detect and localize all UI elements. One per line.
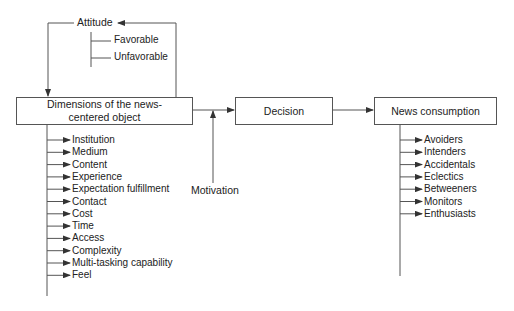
motivation-label: Motivation: [191, 184, 239, 196]
consumer-type-item: Eclectics: [424, 171, 463, 183]
consumer-type-item: Intenders: [424, 146, 466, 158]
consumer-type-item: Accidentals: [424, 159, 475, 171]
dimension-item: Feel: [72, 269, 91, 281]
dimension-item: Content: [72, 159, 107, 171]
dimension-item: Access: [72, 232, 104, 244]
decision-box: Decision: [235, 97, 333, 125]
news-consumption-box: News consumption: [374, 97, 497, 125]
attitude-option-unfavorable: Unfavorable: [114, 51, 168, 63]
consumer-type-item: Avoiders: [424, 134, 463, 146]
consumer-type-item: Monitors: [424, 196, 462, 208]
dimensions-box-label: Dimensions of the news-centered object: [35, 98, 174, 124]
dimension-item: Complexity: [72, 245, 121, 257]
decision-box-label: Decision: [264, 105, 304, 118]
dimension-item: Time: [72, 220, 94, 232]
attitude-label: Attitude: [77, 16, 113, 28]
dimensions-box: Dimensions of the news-centered object: [16, 97, 193, 125]
dimension-item: Multi-tasking capability: [72, 257, 173, 269]
news-consumption-box-label: News consumption: [391, 105, 480, 118]
dimension-item: Cost: [72, 208, 93, 220]
attitude-option-favorable: Favorable: [114, 34, 158, 46]
dimension-item: Contact: [72, 196, 106, 208]
dimension-item: Institution: [72, 134, 115, 146]
dimension-item: Experience: [72, 171, 122, 183]
consumer-type-item: Enthusiasts: [424, 208, 476, 220]
dimension-item: Medium: [72, 146, 108, 158]
dimension-item: Expectation fulfillment: [72, 183, 169, 195]
consumer-type-item: Betweeners: [424, 183, 477, 195]
